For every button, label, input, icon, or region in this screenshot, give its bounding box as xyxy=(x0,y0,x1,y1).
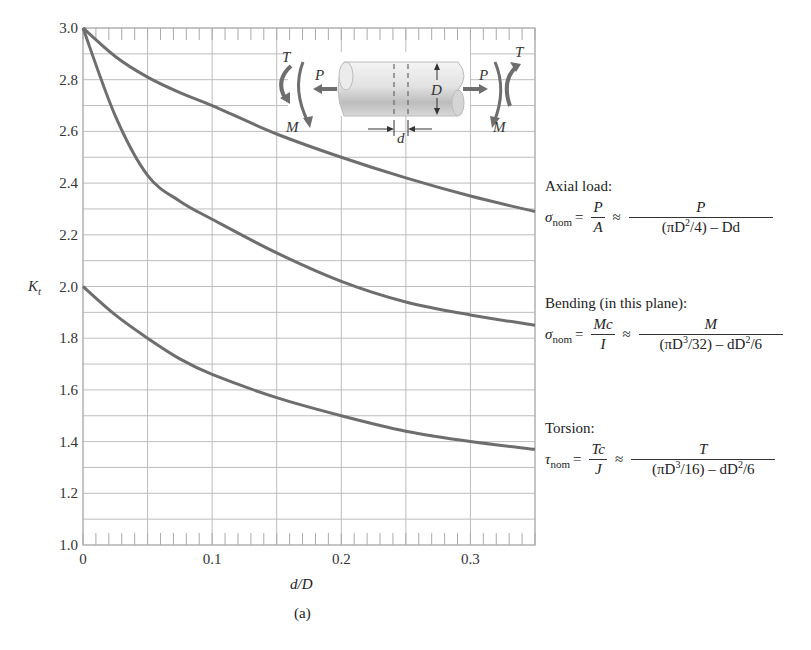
diameter-label: D xyxy=(430,82,442,98)
svg-text:2.0: 2.0 xyxy=(59,279,78,295)
svg-text:1.4: 1.4 xyxy=(59,434,78,450)
svg-text:0.3: 0.3 xyxy=(461,551,480,567)
curve-torsion xyxy=(83,287,535,450)
y-axis-tick-labels: 1.01.21.41.61.82.02.22.42.62.83.0 xyxy=(59,20,78,553)
svg-text:0.1: 0.1 xyxy=(203,551,222,567)
figure-caption: (a) xyxy=(294,605,311,622)
formula-bending: Bending (in this plane): σnom = McI ≈ M … xyxy=(545,295,788,353)
svg-text:2.8: 2.8 xyxy=(59,72,78,88)
shaft-with-hole-diagram: T P M D d P T M xyxy=(280,44,525,146)
svg-text:2.6: 2.6 xyxy=(59,123,78,139)
hole-diameter-label: d xyxy=(397,130,405,146)
x-axis-tick-labels: 00.10.20.3 xyxy=(79,551,480,567)
right-load-arrows-icon xyxy=(463,62,521,128)
axial-force-label-left: P xyxy=(314,67,324,83)
svg-text:2.4: 2.4 xyxy=(59,175,78,191)
shaft-icon xyxy=(338,62,464,116)
moment-label-left: M xyxy=(285,119,300,135)
formula-heading: Axial load: xyxy=(545,178,778,195)
formula-heading: Bending (in this plane): xyxy=(545,295,788,312)
torque-label-right: T xyxy=(515,44,525,60)
svg-text:0: 0 xyxy=(79,551,87,567)
y-axis-label: Kt xyxy=(27,278,42,297)
svg-text:0.2: 0.2 xyxy=(332,551,351,567)
svg-text:2.2: 2.2 xyxy=(59,227,78,243)
svg-text:1.6: 1.6 xyxy=(59,382,78,398)
x-axis-label: d/D xyxy=(290,576,313,593)
formula-axial: Axial load: σnom = PA ≈ P (πD2/4) – Dd xyxy=(545,178,778,236)
axial-force-label-right: P xyxy=(478,67,488,83)
svg-text:1.8: 1.8 xyxy=(59,330,78,346)
svg-text:1.0: 1.0 xyxy=(59,537,78,553)
formula-torsion: Torsion: τnom = TcJ ≈ T (πD3/16) – dD2/6 xyxy=(545,420,780,478)
svg-text:3.0: 3.0 xyxy=(59,20,78,36)
svg-text:1.2: 1.2 xyxy=(59,485,78,501)
formula-heading: Torsion: xyxy=(545,420,780,437)
moment-label-right: M xyxy=(492,119,507,135)
